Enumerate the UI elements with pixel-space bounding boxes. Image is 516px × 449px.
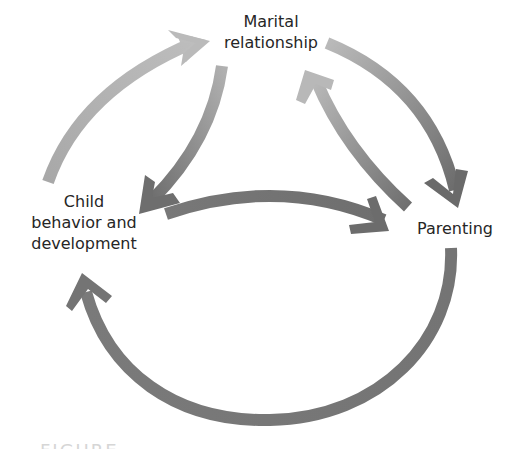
arrow-child-to-parenting	[166, 196, 389, 234]
node-marital-relationship: Marital relationship	[206, 11, 336, 53]
node-child-behavior: Child behavior and development	[4, 191, 164, 254]
node-child-line-1: Child	[4, 191, 164, 212]
node-marital-line-2: relationship	[206, 32, 336, 53]
arrow-parenting-to-child	[66, 248, 451, 420]
node-marital-line-1: Marital	[206, 11, 336, 32]
arrow-parenting-to-marital	[296, 70, 408, 207]
node-parenting: Parenting	[400, 218, 510, 239]
node-parenting-line-1: Parenting	[400, 218, 510, 239]
node-child-line-3: development	[4, 233, 164, 254]
figure-caption-cropped: FIGURE	[40, 442, 200, 449]
node-child-line-2: behavior and	[4, 212, 164, 233]
arrow-marital-to-parenting	[327, 43, 468, 208]
